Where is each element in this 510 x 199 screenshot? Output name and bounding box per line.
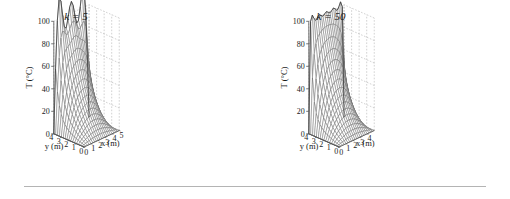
plot-title: k = 5 [64, 10, 88, 22]
y-axis-label: y (m) [300, 141, 319, 151]
x-tick-label: 5 [119, 131, 123, 140]
figure-container: 02040608010001234012345T (°C)y (m)x (m)k… [0, 0, 510, 199]
y-tick-label: 0 [334, 147, 338, 156]
figure-bottom-rule [24, 186, 486, 187]
y-tick-label: 0 [79, 147, 83, 156]
z-tick-label: 40 [42, 85, 50, 94]
z-tick-label: 60 [42, 62, 50, 71]
y-tick-label: 2 [64, 140, 68, 149]
z-tick-label: 20 [297, 107, 305, 116]
y-tick-label: 2 [319, 140, 323, 149]
plot-title: k = 50 [317, 10, 346, 22]
x-tick-label: 1 [91, 144, 95, 153]
z-axis-label: T (°C) [24, 66, 34, 88]
z-tick-label: 100 [38, 17, 50, 26]
y-tick-label: 1 [72, 143, 76, 152]
surface-plot-k50: 0204060801000123401234T (°C)y (m)x (m)k … [255, 0, 510, 175]
z-tick-label: 80 [297, 40, 305, 49]
x-tick-label: 0 [339, 148, 343, 157]
y-axis-label: y (m) [45, 141, 64, 151]
y-tick-label: 1 [327, 143, 331, 152]
z-axis-label: T (°C) [279, 66, 289, 88]
z-tick-label: 60 [297, 62, 305, 71]
x-tick-label: 1 [346, 144, 350, 153]
x-tick-label: 0 [84, 148, 88, 157]
x-axis-label: x (m) [101, 138, 120, 148]
z-tick-label: 80 [42, 40, 50, 49]
z-tick-label: 40 [297, 85, 305, 94]
x-axis-label: x (m) [356, 138, 375, 148]
z-tick-label: 20 [42, 107, 50, 116]
surface-plot-k5: 02040608010001234012345T (°C)y (m)x (m)k… [0, 0, 255, 175]
z-tick-label: 100 [293, 17, 305, 26]
